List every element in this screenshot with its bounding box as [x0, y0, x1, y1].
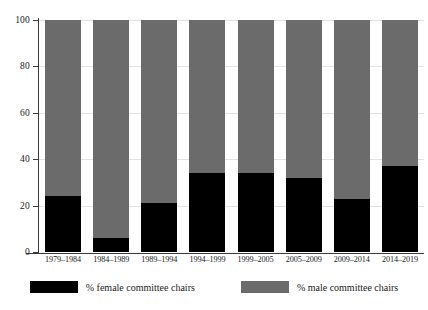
bar-segment-female[interactable] [238, 173, 274, 252]
y-tick-mark [33, 206, 39, 207]
legend-swatch-male [241, 281, 289, 293]
x-tick-label: 2014–2019 [370, 255, 428, 264]
bar-segment-male[interactable] [141, 20, 177, 203]
bar-group[interactable] [141, 20, 177, 252]
legend-item-male[interactable]: % male committee chairs [241, 281, 398, 293]
legend-label-male: % male committee chairs [297, 282, 398, 293]
legend-label-female: % female committee chairs [86, 282, 195, 293]
plot-area: 020406080100 [39, 20, 424, 252]
bar-segment-male[interactable] [238, 20, 274, 173]
bar-group[interactable] [45, 20, 81, 252]
bar-group[interactable] [382, 20, 418, 252]
stacked-bar-chart: 020406080100 % female committee chairs %… [0, 0, 428, 310]
bar-segment-male[interactable] [334, 20, 370, 199]
legend-swatch-female [30, 281, 78, 293]
y-tick-label: 60 [20, 108, 30, 118]
y-tick-mark [33, 113, 39, 114]
y-tick-label: 40 [20, 154, 30, 164]
y-tick-mark [33, 252, 39, 253]
y-tick-label: 0 [25, 247, 30, 257]
x-axis-line [26, 253, 424, 254]
bar-segment-male[interactable] [45, 20, 81, 196]
y-tick-label: 100 [15, 15, 30, 25]
bar-group[interactable] [334, 20, 370, 252]
bar-segment-female[interactable] [382, 166, 418, 252]
y-tick-label: 20 [20, 201, 30, 211]
bar-segment-female[interactable] [93, 238, 129, 252]
chart-legend: % female committee chairs % male committ… [0, 281, 428, 293]
y-tick-mark [33, 159, 39, 160]
y-tick-mark [33, 66, 39, 67]
bar-segment-female[interactable] [286, 178, 322, 252]
bar-segment-female[interactable] [334, 199, 370, 252]
bar-group[interactable] [238, 20, 274, 252]
bar-group[interactable] [286, 20, 322, 252]
bar-segment-male[interactable] [189, 20, 225, 173]
bar-segment-male[interactable] [93, 20, 129, 238]
bar-group[interactable] [189, 20, 225, 252]
bar-segment-female[interactable] [141, 203, 177, 252]
y-tick-mark [33, 20, 39, 21]
y-tick-label: 80 [20, 61, 30, 71]
bar-segment-male[interactable] [382, 20, 418, 166]
bar-segment-female[interactable] [45, 196, 81, 252]
bar-group[interactable] [93, 20, 129, 252]
bar-segment-male[interactable] [286, 20, 322, 178]
legend-item-female[interactable]: % female committee chairs [30, 281, 195, 293]
bar-segment-female[interactable] [189, 173, 225, 252]
